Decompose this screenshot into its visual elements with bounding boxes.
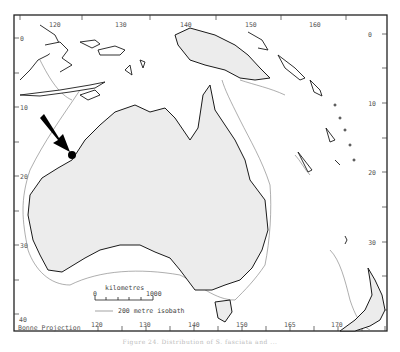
- right-lat-label: 30: [368, 239, 376, 247]
- new-zealand: [340, 268, 385, 331]
- left-ticks: [14, 38, 19, 314]
- projection-label: Bonne Projection: [18, 324, 81, 332]
- right-lat-label: 20: [368, 169, 376, 177]
- left-lat-label: 20: [20, 173, 28, 181]
- top-lon-label: 120: [49, 21, 61, 29]
- location-arrow-icon: [40, 114, 70, 152]
- bottom-lon-label: 170: [331, 321, 343, 329]
- scale-bar: kilometres 0 1000: [93, 284, 162, 300]
- top-lon-label: 130: [115, 21, 127, 29]
- australia-landmass: [28, 85, 268, 290]
- bottom-lon-label: 150: [236, 321, 248, 329]
- locality-marker-dot: [68, 151, 76, 159]
- bottom-lon-label: 140: [188, 321, 200, 329]
- right-lat-label: 10: [368, 100, 376, 108]
- bottom-lon-label: 165: [284, 321, 296, 329]
- scale-end: 1000: [146, 290, 162, 298]
- left-lat-label: 0: [20, 35, 24, 43]
- figure-caption: Figure 24. Distribution of S. fasciata a…: [0, 338, 400, 345]
- scale-title: kilometres: [105, 284, 144, 292]
- bottom-lon-label: 120: [91, 321, 103, 329]
- map-figure: 120 130 140 150 160 120 130 140 150 165 …: [0, 0, 400, 352]
- bottom-lon-label: 130: [139, 321, 151, 329]
- right-lat-label: 0: [368, 31, 372, 39]
- left-lat-label: 40: [19, 316, 27, 324]
- top-lon-label: 150: [245, 21, 257, 29]
- tasmania: [215, 300, 232, 322]
- right-ticks: [382, 34, 387, 310]
- isobath-legend-text: 200 metre isobath: [118, 307, 185, 315]
- indonesia-islands: [20, 25, 145, 100]
- top-ticks: [20, 15, 346, 20]
- left-lat-label: 10: [20, 104, 28, 112]
- top-lon-label: 160: [309, 21, 321, 29]
- new-guinea: [175, 28, 270, 80]
- isobath-legend: 200 metre isobath: [95, 307, 185, 315]
